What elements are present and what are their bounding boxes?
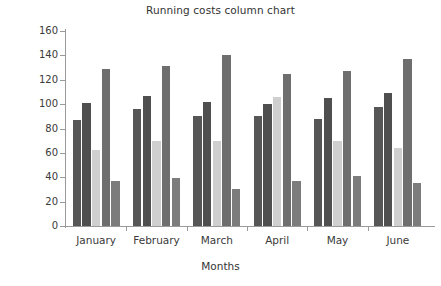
bar — [111, 181, 120, 226]
x-tick-mark — [247, 226, 248, 231]
bar — [374, 107, 383, 226]
x-tick-mark — [368, 226, 369, 231]
y-tick-label: 140 — [18, 50, 58, 60]
y-tick-label: 160 — [18, 26, 58, 36]
y-tick-label: 80 — [18, 124, 58, 134]
bar — [232, 189, 241, 226]
bar — [403, 59, 412, 226]
y-tick-mark — [60, 153, 65, 154]
plot-area — [66, 31, 428, 226]
running-costs-column-chart: Running costs column chart Costs 0204060… — [0, 0, 441, 286]
y-tick-mark — [60, 31, 65, 32]
y-tick-mark — [60, 104, 65, 105]
bar — [273, 97, 282, 226]
bar — [254, 116, 263, 226]
y-tick-label: 40 — [18, 172, 58, 182]
y-tick-mark — [60, 202, 65, 203]
bar — [283, 74, 292, 226]
chart-title: Running costs column chart — [0, 4, 441, 16]
bar — [143, 96, 152, 226]
y-tick-mark — [60, 55, 65, 56]
y-tick-label: 100 — [18, 99, 58, 109]
y-axis-title: Costs — [2, 0, 16, 28]
bar — [263, 104, 272, 226]
y-tick-mark — [60, 226, 65, 227]
bar — [213, 141, 222, 226]
bar — [324, 98, 333, 226]
y-tick-mark — [60, 177, 65, 178]
y-tick-label: 20 — [18, 197, 58, 207]
x-tick-label: February — [126, 234, 186, 247]
bar — [333, 141, 342, 226]
bar — [193, 116, 202, 226]
bar — [203, 102, 212, 226]
x-tick-label: June — [368, 234, 428, 247]
bar — [222, 55, 231, 226]
bar — [353, 176, 362, 226]
bar — [92, 150, 101, 226]
bar — [162, 66, 171, 226]
bar — [292, 181, 301, 226]
x-tick-label: May — [307, 234, 367, 247]
x-tick-label: January — [66, 234, 126, 247]
y-tick-label: 60 — [18, 148, 58, 158]
bar — [172, 178, 181, 226]
x-tick-label: April — [247, 234, 307, 247]
bar — [133, 109, 142, 226]
x-axis-title: Months — [0, 260, 441, 272]
y-tick-label: 120 — [18, 75, 58, 85]
y-tick-mark — [60, 129, 65, 130]
bar — [413, 183, 422, 226]
x-tick-mark — [307, 226, 308, 231]
y-tick-label: 0 — [18, 221, 58, 231]
bar — [314, 119, 323, 226]
y-tick-mark — [60, 80, 65, 81]
bar — [152, 141, 161, 226]
bar — [384, 93, 393, 226]
bar — [102, 69, 111, 226]
bar — [394, 148, 403, 226]
bar — [73, 120, 82, 226]
x-tick-label: March — [187, 234, 247, 247]
y-axis-title-text: Costs — [2, 0, 16, 28]
x-tick-mark — [126, 226, 127, 231]
bar — [343, 71, 352, 226]
bar — [82, 103, 91, 226]
x-tick-mark — [187, 226, 188, 231]
